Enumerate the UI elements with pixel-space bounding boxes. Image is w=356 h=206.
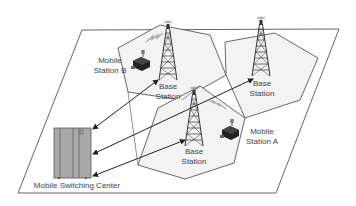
msc-cabinet-icon	[54, 128, 91, 179]
mobile-station-b-label: Mobile Station B	[90, 56, 130, 75]
base-station-right-label: Base Station	[247, 79, 277, 98]
base-station-center-label: Base Station	[179, 147, 209, 166]
mobile-station-a-label: Mobile Station A	[242, 127, 282, 146]
msc-label: Mobile Switching Center	[32, 181, 122, 191]
network-diagram	[0, 0, 356, 206]
base-station-left-label: Base Station	[153, 82, 183, 101]
